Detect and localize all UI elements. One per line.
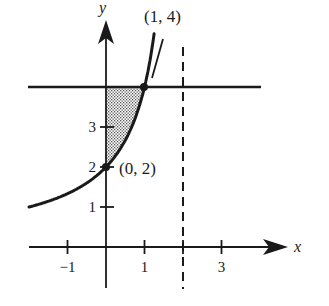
graph-figure: −113 123 y x (0, 2) (1, 4) — [0, 0, 329, 306]
graph-svg: −113 123 y x (0, 2) (1, 4) — [0, 0, 329, 306]
point-1-4 — [140, 83, 148, 91]
point-label-0-2: (0, 2) — [119, 159, 156, 178]
point-0-2 — [102, 163, 110, 171]
y-tick-label: 2 — [89, 159, 97, 175]
point-label-1-4: (1, 4) — [144, 7, 181, 26]
x-ticks: −113 — [60, 240, 226, 275]
y-tick-label: 1 — [89, 199, 97, 215]
x-tick-label: 3 — [218, 259, 226, 275]
x-tick-label: −1 — [60, 259, 76, 275]
x-tick-label: 1 — [141, 259, 149, 275]
y-axis-label: y — [97, 0, 107, 17]
x-axis-label: x — [293, 238, 301, 255]
y-tick-label: 3 — [89, 119, 97, 135]
